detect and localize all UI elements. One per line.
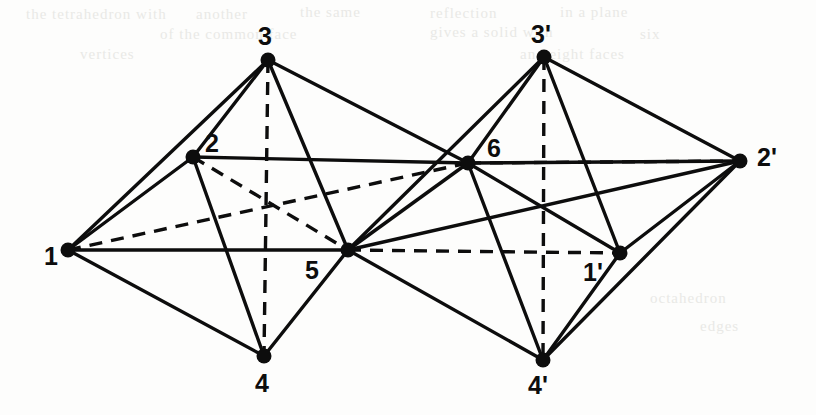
hidden-edge-2-5 [193,157,348,250]
vertex-dot-6 [461,156,476,171]
vertex-label-4p: 4' [528,371,548,399]
vertex-dot-2p [733,154,748,169]
vertex-dot-3p [537,50,552,65]
vertex-label-1: 1 [44,242,58,270]
edge-3p-2p [544,57,740,161]
vertex-label-3: 3 [258,22,272,50]
vertex-dot-4p [536,353,551,368]
hidden-edge-5-1p [348,250,620,253]
vertex-label-5: 5 [305,256,319,284]
edge-5-4p [348,250,543,360]
vertex-label-4: 4 [255,369,269,397]
edge-1-3 [68,60,268,250]
vertex-dot-5 [341,243,356,258]
vertex-label-3p: 3' [531,20,551,48]
edge-3-6 [268,60,468,163]
edge-6-4p [468,163,543,360]
edge-2-4 [193,157,264,356]
vertex-label-6: 6 [487,134,501,162]
vertex-dot-4 [257,349,272,364]
edge-5-3p [348,57,544,250]
edge-3p-1p [544,57,620,253]
edge-6-3p [468,57,544,163]
octahedra-diagram: 1234563'2'1'4' [0,0,816,415]
edge-3-5 [268,60,348,250]
vertex-label-2p: 2' [757,143,777,171]
vertex-label-group: 1234563'2'1'4' [44,20,777,399]
edge-1-2 [68,157,193,250]
vertex-label-2: 2 [205,129,219,157]
visible-edge-group [68,57,740,360]
edge-6-2p [468,161,740,163]
edge-2-6 [193,157,468,163]
vertex-dot-1 [61,243,76,258]
vertex-label-1p: 1' [583,258,603,286]
figure-page: the tetrahedron withanotherthe samerefle… [0,0,816,415]
vertex-dot-3 [261,53,276,68]
edge-4p-1p [543,253,620,360]
vertex-dot-1p [613,246,628,261]
edge-1-4 [68,250,264,356]
edge-4p-2p [543,161,740,360]
vertex-dot-2 [186,150,201,165]
